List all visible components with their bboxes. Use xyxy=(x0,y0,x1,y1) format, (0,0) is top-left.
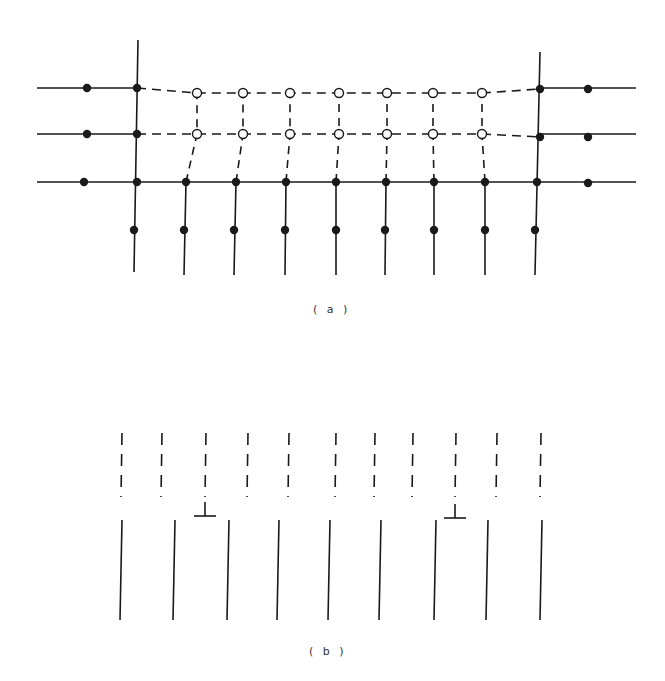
solid-plane-line xyxy=(379,520,381,620)
filled-atom-dot xyxy=(133,178,141,186)
filled-atom-dot xyxy=(230,226,238,234)
filled-atom-dot xyxy=(584,85,592,93)
solid-plane-line xyxy=(120,520,122,620)
solid-plane-line xyxy=(173,520,175,620)
filled-atom-dot xyxy=(332,178,340,186)
filled-atom-dot xyxy=(130,226,138,234)
open-site-circle xyxy=(383,89,392,98)
filled-atom-dot xyxy=(282,178,290,186)
solid-plane-line xyxy=(277,520,279,620)
filled-atom-dot xyxy=(430,226,438,234)
filled-atom-dot xyxy=(232,178,240,186)
panel-b-dislocations xyxy=(120,433,542,620)
filled-atom-dot xyxy=(481,226,489,234)
filled-atom-dot xyxy=(182,178,190,186)
dashed-plane-line xyxy=(247,433,248,497)
solid-plane-line xyxy=(486,520,488,620)
filled-atom-dot xyxy=(281,226,289,234)
filled-atom-dot xyxy=(83,84,91,92)
open-site-circle xyxy=(193,130,202,139)
open-site-circle xyxy=(429,130,438,139)
filled-atom-dot xyxy=(531,226,539,234)
dashed-plane-line xyxy=(412,433,413,497)
dashed-plane-line xyxy=(455,433,456,497)
dashed-plane-line xyxy=(288,433,289,497)
filled-atom-dot xyxy=(80,178,88,186)
dashed-plane-line xyxy=(374,433,375,497)
dashed-plane-line xyxy=(540,433,541,497)
filled-atom-dot xyxy=(536,133,544,141)
filled-atom-dot xyxy=(430,178,438,186)
panel-b-caption: ( b ) xyxy=(309,645,347,658)
open-site-circle xyxy=(478,89,487,98)
lattice-diagram xyxy=(0,0,665,681)
dashed-plane-line xyxy=(205,433,206,497)
open-site-circle xyxy=(478,130,487,139)
filled-atom-dot xyxy=(536,85,544,93)
open-site-circle xyxy=(239,130,248,139)
dashed-plane-line xyxy=(161,433,162,497)
filled-atom-dot xyxy=(584,133,592,141)
filled-atom-dot xyxy=(180,226,188,234)
filled-atom-dot xyxy=(533,178,541,186)
open-site-circle xyxy=(383,130,392,139)
open-site-circle xyxy=(193,89,202,98)
solid-plane-line xyxy=(328,520,330,620)
filled-atom-dot xyxy=(133,84,141,92)
dashed-plane-line xyxy=(496,433,497,497)
open-site-circle xyxy=(286,130,295,139)
filled-atom-dot xyxy=(332,226,340,234)
solid-plane-line xyxy=(434,520,436,620)
open-site-circle xyxy=(429,89,438,98)
filled-atom-dot xyxy=(133,130,141,138)
dashed-plane-line xyxy=(335,433,336,497)
panel-a-caption: ( a ) xyxy=(313,303,350,316)
filled-atom-dot xyxy=(382,178,390,186)
solid-plane-line xyxy=(540,520,542,620)
filled-atom-dot xyxy=(584,179,592,187)
filled-atom-dot xyxy=(381,226,389,234)
solid-vertical-line xyxy=(134,40,138,272)
open-site-circle xyxy=(335,130,344,139)
panel-a-lattice xyxy=(37,40,636,275)
filled-atom-dot xyxy=(481,178,489,186)
open-site-circle xyxy=(286,89,295,98)
solid-plane-line xyxy=(227,520,229,620)
open-site-circle xyxy=(239,89,248,98)
dashed-plane-line xyxy=(121,433,122,497)
filled-atom-dot xyxy=(83,130,91,138)
open-site-circle xyxy=(335,89,344,98)
